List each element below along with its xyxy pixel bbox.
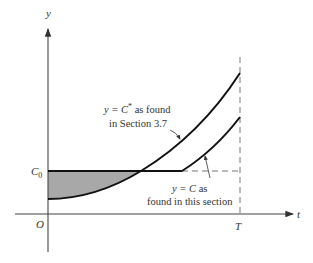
c-leader-arrow bbox=[205, 156, 210, 178]
t-label: T bbox=[235, 220, 242, 232]
origin-label: O bbox=[36, 218, 44, 230]
diagram-canvas: y t O T C0 y = C* as found in Section 3.… bbox=[0, 0, 313, 263]
c0-label-sub: 0 bbox=[38, 171, 42, 180]
cstar-annotation-line2: in Section 3.7 bbox=[109, 118, 167, 129]
cstar-annotation-line1: y = C* as found bbox=[103, 102, 171, 115]
shaded-region bbox=[48, 171, 141, 199]
c0-label: C0 bbox=[31, 165, 42, 180]
x-axis-label: t bbox=[297, 208, 301, 220]
c-curve-rising bbox=[182, 117, 240, 171]
c-annotation-line2: found in this section bbox=[147, 196, 233, 207]
y-axis-label: y bbox=[45, 7, 51, 19]
c-annotation-line1: y = C as bbox=[171, 183, 207, 194]
c-annotation-suffix: as bbox=[196, 183, 207, 194]
c-annotation-prefix: y = C bbox=[171, 183, 197, 194]
diagram-svg: y t O T C0 y = C* as found in Section 3.… bbox=[0, 0, 313, 263]
cstar-leader-arrow bbox=[170, 130, 180, 139]
cstar-annotation-suffix: as found bbox=[132, 104, 171, 115]
cstar-annotation-prefix: y = C bbox=[103, 104, 129, 115]
